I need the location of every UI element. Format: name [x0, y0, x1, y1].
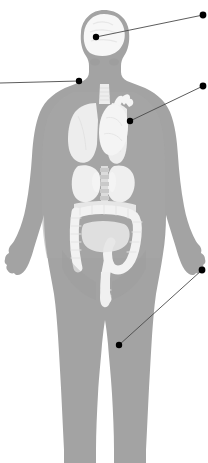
small-intestine-organ [82, 221, 130, 252]
rectum-organ [100, 272, 110, 307]
callout-neck-line [0, 81, 79, 83]
anatomy-illustration [0, 0, 208, 463]
callout-neck[interactable] [0, 78, 82, 84]
face-shading-left [90, 59, 100, 66]
neck-organs-group [99, 84, 110, 104]
callout-head-dot-target[interactable] [93, 34, 99, 40]
callout-head-dot-end[interactable] [200, 12, 207, 19]
callout-leg-dot-target[interactable] [116, 342, 122, 348]
callout-chest-dot-target[interactable] [127, 118, 133, 124]
anatomy-figure [0, 0, 208, 463]
callout-leg-dot-end[interactable] [199, 267, 206, 274]
callout-chest-dot-end[interactable] [200, 83, 207, 90]
trachea-organ [99, 84, 110, 104]
callout-neck-dot-target[interactable] [76, 78, 82, 84]
spine-organ [100, 166, 109, 204]
face-shading-right [109, 59, 119, 66]
